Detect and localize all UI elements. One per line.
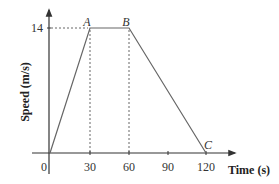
x-tick-label-120: 120 <box>197 160 215 174</box>
x-tick-label-60: 60 <box>123 160 135 174</box>
point-label-b: B <box>122 15 130 29</box>
x-tick-label-90: 90 <box>162 160 174 174</box>
x-tick-label-0: 0 <box>41 160 47 174</box>
x-axis-title: Time (s) <box>228 163 270 177</box>
speed-line <box>50 28 206 153</box>
point-label-a: A <box>82 15 91 29</box>
y-axis-title: Speed (m/s) <box>18 62 32 122</box>
y-tick-label-14: 14 <box>31 21 43 35</box>
point-label-c: C <box>204 138 213 152</box>
x-tick-label-30: 30 <box>84 160 96 174</box>
speed-time-graph: 0 30 60 90 120 14 A B C Time (s) Speed (… <box>0 0 279 184</box>
